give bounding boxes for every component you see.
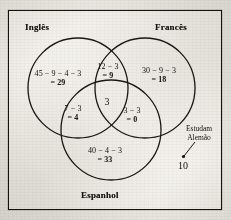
circle-ingles: [28, 38, 128, 138]
annotation-dot: [182, 155, 185, 158]
region-expression: 45 − 9 − 4 − 3: [24, 69, 92, 78]
diagram-page: Inglês Francês Espanhol 45 − 9 − 4 − 3 =…: [0, 0, 231, 220]
region-result: = 0: [116, 115, 148, 124]
region-ingles-espanhol: 7 − 3 = 4: [56, 104, 90, 123]
region-ingles-frances: 12 − 3 = 9: [88, 62, 128, 81]
region-espanhol-only: 40 − 4 − 3 = 33: [72, 146, 138, 165]
region-expression: 30 − 9 − 3: [128, 66, 190, 75]
label-espanhol: Espanhol: [81, 190, 119, 200]
label-frances: Francês: [155, 22, 187, 32]
region-frances-espanhol: 3 − 3 = 0: [116, 106, 148, 125]
region-result: = 4: [56, 113, 90, 122]
region-frances-only: 30 − 9 − 3 = 18: [128, 66, 190, 85]
region-result: = 9: [88, 71, 128, 80]
region-result: = 33: [72, 155, 138, 164]
circle-espanhol: [61, 80, 161, 180]
region-expression: 7 − 3: [56, 104, 90, 113]
region-expression: 3 − 3: [116, 106, 148, 115]
annotation-line-2: Alemão: [176, 133, 222, 142]
annotation-label: Estudam Alemão: [176, 124, 222, 143]
region-expression: 40 − 4 − 3: [72, 146, 138, 155]
region-ingles-only: 45 − 9 − 4 − 3 = 29: [24, 69, 92, 88]
label-ingles: Inglês: [25, 22, 49, 32]
region-expression: 12 − 3: [88, 62, 128, 71]
annotation-value: 10: [178, 160, 188, 171]
annotation-leader-line: [184, 142, 195, 156]
region-result: = 18: [128, 75, 190, 84]
annotation-line-1: Estudam: [176, 124, 222, 133]
region-result: = 29: [24, 78, 92, 87]
